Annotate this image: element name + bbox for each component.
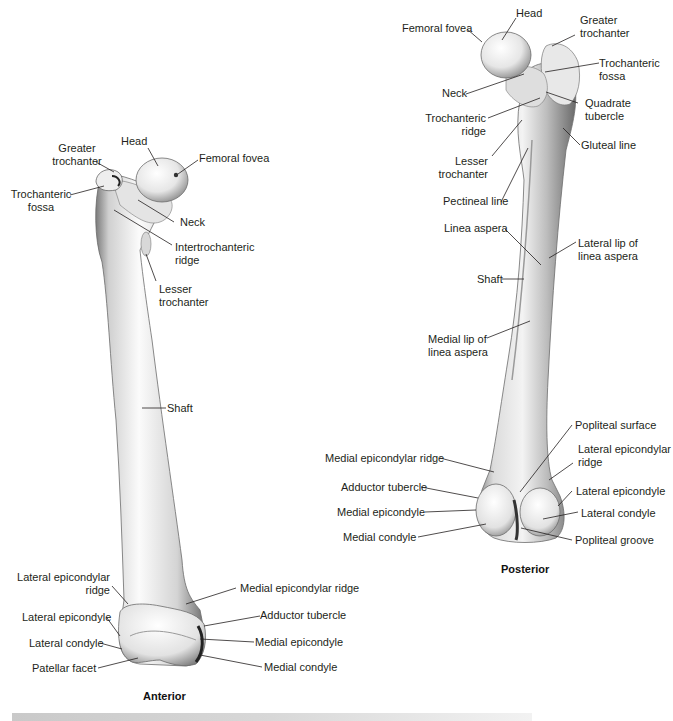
- posterior-label-lesser-trochanter: Lesser trochanter: [420, 155, 488, 181]
- posterior-label-medial-epicondyle: Medial epicondyle: [337, 506, 425, 519]
- anterior-label-greater-trochanter: Greater trochanter: [42, 142, 112, 168]
- posterior-label-medial-epicondylar-ridge: Medial epicondylar ridge: [325, 452, 444, 465]
- posterior-label-lateral-epicondyle: Lateral epicondyle: [576, 485, 665, 498]
- posterior-label-gluteal-line: Gluteal line: [581, 139, 636, 152]
- anterior-label-lateral-epicondyle: Lateral epicondyle: [22, 611, 111, 624]
- posterior-label-greater-trochanter: Greater trochanter: [580, 14, 630, 40]
- posterior-label-adductor-tubercle: Adductor tubercle: [341, 481, 427, 494]
- posterior-label-quadrate-tubercle: Quadrate tubercle: [585, 97, 631, 123]
- anterior-label-trochanteric-fossa: Trochanteric fossa: [8, 188, 74, 214]
- anterior-label-neck: Neck: [180, 216, 205, 229]
- anterior-label-medial-epicondylar-ridge: Medial epicondylar ridge: [240, 582, 359, 595]
- anterior-label-lesser-trochanter: Lesser trochanter: [159, 283, 209, 309]
- posterior-label-neck: Neck: [442, 87, 467, 100]
- posterior-label-femoral-fovea: Femoral fovea: [402, 22, 472, 35]
- posterior-label-popliteal-groove: Popliteal groove: [575, 534, 654, 547]
- posterior-label-popliteal-surface: Popliteal surface: [575, 419, 656, 432]
- posterior-label-lateral-epicondylar-ridge: Lateral epicondylar ridge: [578, 443, 671, 469]
- posterior-label-lateral-condyle: Lateral condyle: [581, 507, 656, 520]
- femur-diagram: Head Greater trochanter Femoral fovea Tr…: [0, 0, 673, 721]
- anterior-label-head: Head: [121, 135, 147, 148]
- anterior-label-femoral-fovea: Femoral fovea: [199, 152, 269, 165]
- posterior-label-shaft: Shaft: [477, 273, 503, 286]
- anterior-label-patellar-facet: Patellar facet: [32, 662, 96, 675]
- anterior-caption: Anterior: [143, 690, 186, 702]
- anterior-label-adductor-tubercle: Adductor tubercle: [260, 609, 346, 622]
- posterior-label-linea-aspera: Linea aspera: [444, 222, 508, 235]
- posterior-label-medial-lip-linea-aspera: Medial lip of linea aspera: [428, 333, 488, 359]
- posterior-label-medial-condyle: Medial condyle: [343, 531, 416, 544]
- anterior-label-shaft: Shaft: [167, 402, 193, 415]
- posterior-label-pectineal-line: Pectineal line: [443, 195, 508, 208]
- posterior-label-head: Head: [516, 7, 542, 20]
- posterior-label-trochanteric-ridge: Trochanteric ridge: [410, 112, 486, 138]
- anterior-label-intertrochanteric-ridge: Intertrochanteric ridge: [175, 241, 254, 267]
- posterior-femur: [476, 32, 580, 543]
- bottom-divider-bar: [12, 713, 532, 721]
- anterior-label-medial-epicondyle: Medial epicondyle: [255, 636, 343, 649]
- anterior-label-lateral-condyle: Lateral condyle: [29, 637, 104, 650]
- anterior-label-lateral-epicondylar-ridge: Lateral epicondylar ridge: [6, 571, 110, 597]
- anterior-label-medial-condyle: Medial condyle: [264, 661, 337, 674]
- posterior-label-lateral-lip-linea-aspera: Lateral lip of linea aspera: [578, 237, 638, 263]
- posterior-label-trochanteric-fossa: Trochanteric fossa: [599, 57, 660, 83]
- posterior-caption: Posterior: [501, 563, 549, 575]
